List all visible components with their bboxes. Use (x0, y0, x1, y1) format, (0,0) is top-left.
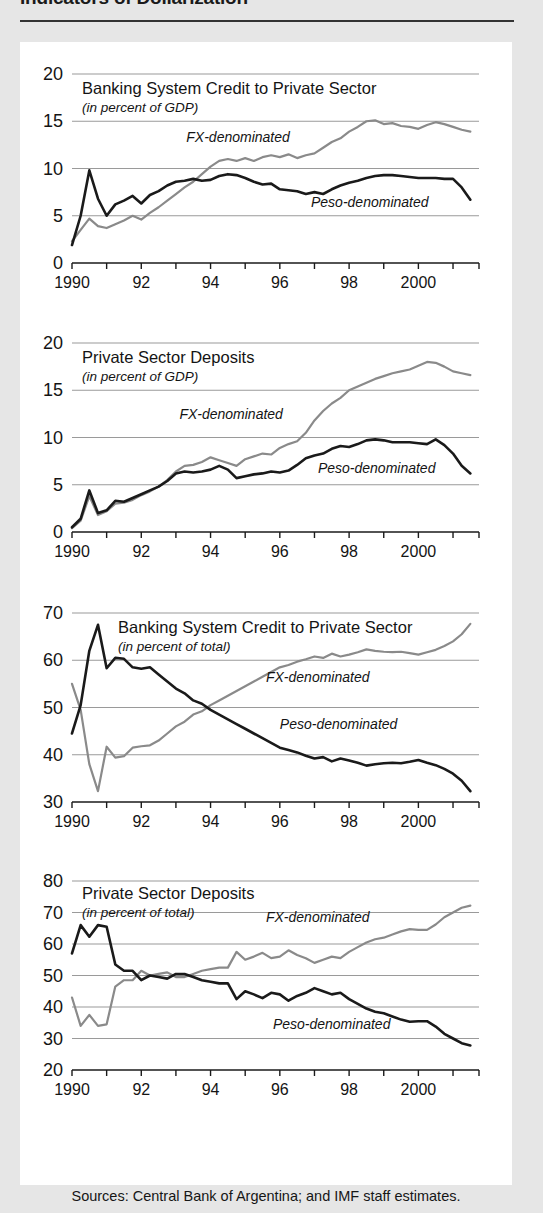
chart-subtitle: (in percent of GDP) (82, 100, 198, 115)
series-line-peso (72, 439, 470, 527)
title-divider (20, 20, 514, 22)
x-axis-tick-label: 96 (271, 813, 289, 830)
x-axis-tick-label: 98 (340, 274, 358, 291)
x-axis-tick-label: 94 (202, 274, 220, 291)
chart-panel-credit-gdp: 051015201990929496982000Banking System C… (20, 48, 512, 310)
x-axis-tick-label: 94 (202, 1081, 220, 1098)
chart-title: Private Sector Deposits (82, 884, 254, 902)
chart-panel-deposits-gdp: 051015201990929496982000Private Sector D… (20, 317, 512, 579)
y-axis-tick-label: 60 (43, 650, 63, 670)
x-axis-tick-label: 1990 (54, 813, 90, 830)
x-axis-tick-label: 92 (132, 1081, 150, 1098)
series-annotation: FX-denominated (186, 129, 291, 145)
y-axis-tick-label: 5 (53, 475, 63, 495)
y-axis-tick-label: 10 (43, 428, 63, 448)
x-axis-tick-label: 98 (340, 813, 358, 830)
y-axis-tick-label: 15 (43, 111, 63, 131)
series-annotation: FX-denominated (266, 669, 371, 685)
chart-title: Private Sector Deposits (82, 348, 254, 366)
y-axis-tick-label: 80 (43, 871, 63, 891)
series-annotation: Peso-denominated (280, 716, 399, 732)
chart-svg-deposits-gdp: 051015201990929496982000Private Sector D… (20, 317, 512, 579)
x-axis-tick-label: 1990 (54, 543, 90, 560)
chart-svg-credit-total: 30405060701990929496982000Banking System… (20, 587, 512, 849)
series-annotation: Peso-denominated (273, 1016, 392, 1032)
figure-card: 051015201990929496982000Banking System C… (20, 42, 512, 1185)
chart-svg-credit-gdp: 051015201990929496982000Banking System C… (20, 48, 512, 310)
x-axis-tick-label: 1990 (54, 1081, 90, 1098)
y-axis-tick-label: 0 (53, 253, 63, 273)
chart-title: Banking System Credit to Private Sector (82, 79, 377, 97)
x-axis-tick-label: 92 (132, 274, 150, 291)
series-line-fx (72, 362, 470, 528)
x-axis-tick-label: 98 (340, 543, 358, 560)
x-axis-tick-label: 92 (132, 813, 150, 830)
chart-subtitle: (in percent of total) (82, 905, 195, 920)
x-axis-tick-label: 96 (271, 1081, 289, 1098)
chart-subtitle: (in percent of total) (118, 639, 231, 654)
y-axis-tick-label: 20 (43, 1060, 63, 1080)
y-axis-tick-label: 40 (43, 997, 63, 1017)
x-axis-tick-label: 2000 (401, 1081, 437, 1098)
chart-title: Banking System Credit to Private Sector (118, 618, 413, 636)
x-axis-tick-label: 2000 (401, 543, 437, 560)
chart-panel-deposits-total: 203040506070801990929496982000Private Se… (20, 855, 512, 1117)
x-axis-tick-label: 2000 (401, 813, 437, 830)
series-annotation: Peso-denominated (311, 194, 430, 210)
y-axis-tick-label: 20 (43, 64, 63, 84)
x-axis-tick-label: 98 (340, 1081, 358, 1098)
y-axis-tick-label: 40 (43, 745, 63, 765)
x-axis-tick-label: 96 (271, 543, 289, 560)
x-axis-tick-label: 1990 (54, 274, 90, 291)
x-axis-tick-label: 96 (271, 274, 289, 291)
chart-panel-credit-total: 30405060701990929496982000Banking System… (20, 587, 512, 849)
x-axis-tick-label: 2000 (401, 274, 437, 291)
y-axis-tick-label: 60 (43, 934, 63, 954)
chart-svg-deposits-total: 203040506070801990929496982000Private Se… (20, 855, 512, 1117)
y-axis-tick-label: 0 (53, 522, 63, 542)
y-axis-tick-label: 15 (43, 380, 63, 400)
chart-subtitle: (in percent of GDP) (82, 369, 198, 384)
figure-page: Indicators of Dollarization 051015201990… (0, 0, 543, 1213)
y-axis-tick-label: 30 (43, 792, 63, 812)
y-axis-tick-label: 20 (43, 333, 63, 353)
x-axis-tick-label: 92 (132, 543, 150, 560)
x-axis-tick-label: 94 (202, 813, 220, 830)
source-note: Sources: Central Bank of Argentina; and … (20, 1188, 512, 1204)
series-line-peso (72, 925, 470, 1045)
y-axis-tick-label: 70 (43, 903, 63, 923)
x-axis-tick-label: 94 (202, 543, 220, 560)
series-annotation: FX-denominated (179, 406, 284, 422)
figure-title: Indicators of Dollarization (20, 0, 248, 9)
y-axis-tick-label: 70 (43, 603, 63, 623)
series-annotation: Peso-denominated (318, 460, 437, 476)
y-axis-tick-label: 10 (43, 159, 63, 179)
y-axis-tick-label: 50 (43, 966, 63, 986)
series-annotation: FX-denominated (266, 909, 371, 925)
y-axis-tick-label: 50 (43, 698, 63, 718)
y-axis-tick-label: 5 (53, 206, 63, 226)
y-axis-tick-label: 30 (43, 1029, 63, 1049)
